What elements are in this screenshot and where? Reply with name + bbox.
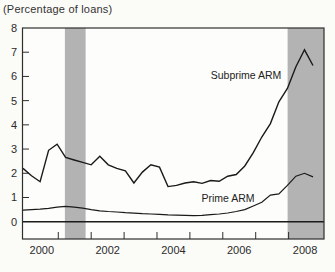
y-tick-label-6: 6 [11,70,17,82]
x-tick-label-2004: 2004 [161,244,185,256]
line-chart-canvas: 01234567820002002200420062008 [0,0,335,272]
prime-arm-series-label: Prime ARM [201,192,254,204]
y-tick-label-2: 2 [11,167,17,179]
y-tick-label-0: 0 [11,216,17,228]
y-tick-label-5: 5 [11,95,17,107]
chart-figure: (Percentage of loans) 012345678200020022… [0,0,335,272]
y-tick-label-8: 8 [11,22,17,34]
y-tick-label-3: 3 [11,143,17,155]
y-tick-label-4: 4 [11,119,17,131]
x-tick-label-2006: 2006 [227,244,251,256]
x-tick-label-2000: 2000 [30,244,54,256]
x-tick-label-2008: 2008 [293,244,317,256]
y-tick-label-7: 7 [11,46,17,58]
x-tick-label-2002: 2002 [95,244,119,256]
y-tick-label-1: 1 [11,191,17,203]
subprime-arm-series-label: Subprime ARM [211,69,282,81]
recession-band-2 [288,28,324,239]
